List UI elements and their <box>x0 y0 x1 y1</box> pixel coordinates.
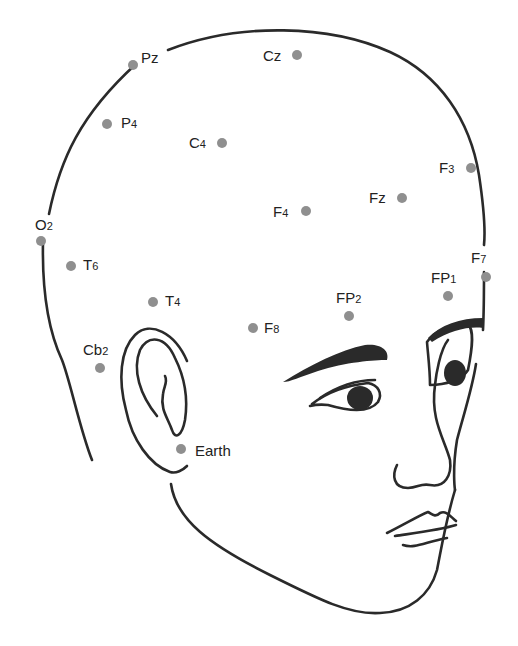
electrode-fp1 <box>443 291 453 301</box>
far-eye-pupil <box>444 360 466 386</box>
electrode-t4 <box>148 297 158 307</box>
electrode-f3 <box>466 163 476 173</box>
label-f8: F8 <box>264 320 279 335</box>
chin-lip <box>403 538 447 546</box>
ear-inner <box>137 340 186 436</box>
far-eyebrow <box>428 318 483 342</box>
electrode-t6 <box>66 261 76 271</box>
label-fp2: FP2 <box>336 290 361 305</box>
label-t6: T6 <box>83 257 98 272</box>
label-earth: Earth <box>195 443 231 458</box>
label-t4: T4 <box>165 293 180 308</box>
skull-top-outline <box>168 30 484 245</box>
label-cb2: Cb2 <box>83 342 108 357</box>
label-f3: F3 <box>439 160 454 175</box>
lips-lower <box>395 525 456 536</box>
electrode-earth <box>176 444 186 454</box>
electrode-p4 <box>102 119 112 129</box>
label-pz: Pz <box>141 50 159 65</box>
electrode-c4 <box>217 138 227 148</box>
electrode-pz <box>128 60 138 70</box>
electrode-fp2 <box>344 311 354 321</box>
electrode-f7 <box>481 272 491 282</box>
label-c4: C4 <box>189 135 206 150</box>
label-f4: F4 <box>273 204 288 219</box>
jaw-outline <box>171 484 455 613</box>
electrode-cb2 <box>95 363 105 373</box>
nose-outline <box>394 340 450 488</box>
label-p4: P4 <box>121 115 137 130</box>
near-eyebrow <box>283 345 388 382</box>
electrode-cz <box>292 50 302 60</box>
eeg-head-diagram: Pz Cz P4 C4 F3 Fz F4 O2 T6 F7 FP1 T4 FP2… <box>0 0 518 646</box>
skull-back-outline <box>49 64 136 214</box>
label-fz: Fz <box>369 190 386 205</box>
head-outline-drawing <box>0 0 518 646</box>
electrode-f4 <box>301 206 311 216</box>
label-fp1: FP1 <box>431 270 456 285</box>
label-o2: O2 <box>35 217 53 232</box>
electrode-f8 <box>248 323 258 333</box>
electrode-o2 <box>36 236 46 246</box>
label-cz: Cz <box>263 48 281 63</box>
electrode-fz <box>397 193 407 203</box>
label-f7: F7 <box>471 250 486 265</box>
near-eye-pupil <box>347 386 373 410</box>
